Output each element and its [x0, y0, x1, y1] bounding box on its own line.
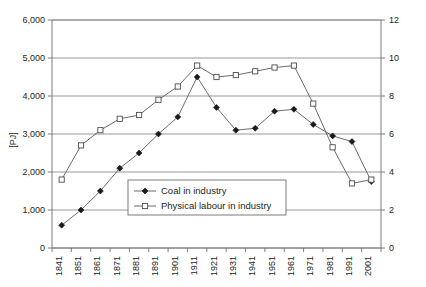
data-point-labour-1901	[175, 84, 180, 89]
right-axis-tick-label: 4	[389, 167, 394, 177]
data-point-labour-1861	[98, 128, 103, 133]
x-axis-tick-label-1841: 1841	[54, 256, 64, 276]
x-axis-tick-label-1991: 1991	[344, 256, 354, 276]
left-axis-tick-label: 4,000	[22, 91, 45, 101]
data-point-labour-1891	[156, 97, 161, 102]
data-point-labour-1881	[136, 112, 141, 117]
x-axis-tick-label-1981: 1981	[325, 256, 335, 276]
legend-label-0: Coal in industry	[161, 185, 227, 196]
data-point-labour-1911	[195, 63, 200, 68]
x-axis-tick-label-1941: 1941	[247, 256, 257, 276]
x-axis-tick-label-1911: 1911	[189, 256, 199, 275]
right-axis-tick-label: 10	[389, 53, 399, 63]
x-axis-tick-label-1931: 1931	[228, 256, 238, 276]
right-axis-tick-label: 8	[389, 91, 394, 101]
data-point-labour-1851	[78, 143, 83, 148]
right-axis-tick-label: 12	[389, 15, 399, 25]
legend-marker-open-square-icon	[142, 203, 147, 208]
data-point-labour-1961	[291, 63, 296, 68]
right-axis-tick-label: 2	[389, 205, 394, 215]
x-axis-tick-label-1861: 1861	[92, 256, 102, 276]
x-axis-tick-label-1961: 1961	[286, 256, 296, 276]
left-axis-tick-label: 6,000	[22, 15, 45, 25]
series-line-labour	[62, 66, 372, 184]
dual-axis-line-chart: 01,0002,0003,0004,0005,0006,000[PJ]02468…	[0, 0, 426, 287]
data-point-labour-2001	[369, 177, 374, 182]
x-axis-tick-label-1921: 1921	[209, 256, 219, 276]
legend-label-1: Physical labour in industry	[161, 200, 272, 211]
chart-container: 01,0002,0003,0004,0005,0006,000[PJ]02468…	[0, 0, 426, 287]
x-axis-tick-label-1851: 1851	[73, 256, 83, 276]
data-point-labour-1991	[349, 181, 354, 186]
right-axis-tick-label: 6	[389, 129, 394, 139]
x-axis-tick-label-2001: 2001	[363, 256, 373, 276]
data-point-labour-1931	[233, 73, 238, 78]
data-point-labour-1981	[330, 145, 335, 150]
data-point-labour-1951	[272, 65, 277, 70]
data-point-coal-1911	[194, 74, 200, 80]
x-axis-tick-label-1951: 1951	[267, 256, 277, 276]
left-axis-tick-label: 0	[40, 243, 45, 253]
data-point-labour-1871	[117, 116, 122, 121]
data-point-labour-1921	[214, 74, 219, 79]
x-axis-tick-label-1881: 1881	[131, 256, 141, 276]
x-axis-tick-label-1901: 1901	[170, 256, 180, 276]
x-axis-tick-label-1871: 1871	[112, 256, 122, 276]
left-axis-tick-label: 2,000	[22, 167, 45, 177]
x-axis-tick-label-1891: 1891	[150, 256, 160, 276]
left-axis-tick-label: 3,000	[22, 129, 45, 139]
left-axis-tick-label: 1,000	[22, 205, 45, 215]
left-axis-title: [PJ]	[8, 132, 18, 148]
data-point-labour-1941	[253, 69, 258, 74]
right-axis-tick-label: 0	[389, 243, 394, 253]
x-axis-tick-label-1971: 1971	[305, 256, 315, 276]
data-point-labour-1841	[59, 177, 64, 182]
data-point-coal-1991	[349, 139, 355, 145]
left-axis-tick-label: 5,000	[22, 53, 45, 63]
data-point-labour-1971	[311, 101, 316, 106]
